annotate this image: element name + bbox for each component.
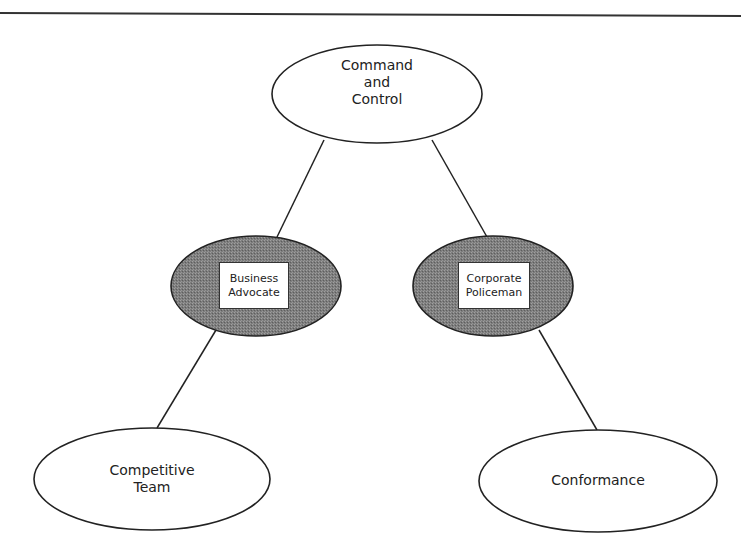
label-command-and-control: Command and Control <box>317 57 437 107</box>
label-line: Team <box>82 479 222 496</box>
label-line: Business <box>228 272 279 285</box>
label-line: Competitive <box>82 462 222 479</box>
label-conformance: Conformance <box>528 472 668 489</box>
label-line: Policeman <box>466 286 522 299</box>
label-line: Advocate <box>228 286 279 299</box>
top-rule <box>0 13 741 16</box>
edge-command-to-corporate <box>432 140 487 237</box>
label-box-corporate-policeman: Corporate Policeman <box>458 262 530 309</box>
label-line: Conformance <box>528 472 668 489</box>
diagram-canvas: Command and Control Business Advocate Co… <box>0 0 741 547</box>
label-line: Corporate <box>466 272 522 285</box>
label-business-advocate: Business Advocate <box>228 272 279 298</box>
label-corporate-policeman: Corporate Policeman <box>466 272 522 298</box>
edge-business-to-competitive <box>157 330 216 428</box>
edge-corporate-to-conformance <box>539 330 597 430</box>
label-box-business-advocate: Business Advocate <box>219 262 289 309</box>
label-competitive-team: Competitive Team <box>82 462 222 496</box>
label-line: Command <box>317 57 437 74</box>
label-line: Control <box>317 91 437 108</box>
label-line: and <box>317 74 437 91</box>
edge-command-to-business <box>277 140 324 237</box>
